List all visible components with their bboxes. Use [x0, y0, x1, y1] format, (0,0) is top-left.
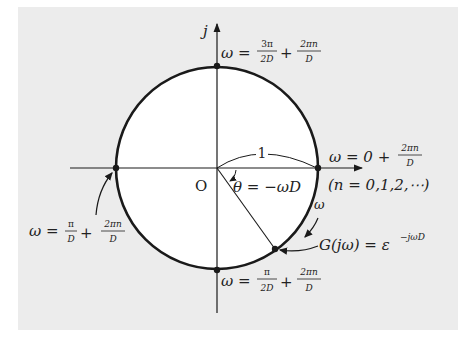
- svg-text:2πn: 2πn: [299, 39, 318, 49]
- svg-text:3π: 3π: [261, 39, 273, 49]
- svg-text:ω = 0 +: ω = 0 +: [329, 148, 390, 166]
- svg-text:ω =: ω =: [29, 222, 59, 240]
- direction-label: ω: [314, 197, 325, 212]
- svg-text:G(jω) = ε: G(jω) = ε: [319, 236, 390, 254]
- svg-text:D: D: [304, 283, 312, 293]
- svg-text:D: D: [304, 54, 312, 64]
- left-pointer-arrow: [96, 173, 112, 215]
- point-right: [315, 165, 321, 171]
- direction-arrow: [305, 218, 318, 237]
- point-left: [113, 165, 119, 171]
- svg-text:2πn: 2πn: [103, 219, 122, 229]
- point-g: [272, 246, 278, 252]
- svg-text:2πn: 2πn: [400, 143, 419, 153]
- svg-text:ω =: ω =: [221, 272, 251, 290]
- point-top: [214, 63, 220, 69]
- svg-text:+: +: [80, 224, 93, 242]
- svg-text:2D: 2D: [260, 54, 274, 64]
- svg-text:(n = 0,1,2,⋯): (n = 0,1,2,⋯): [328, 176, 430, 194]
- g-pointer-arrow: [280, 246, 318, 251]
- svg-text:2D: 2D: [260, 283, 274, 293]
- svg-text:D: D: [108, 234, 116, 244]
- bottom-point-label: ω = π 2D + 2πn D: [221, 267, 321, 293]
- svg-text:+: +: [280, 273, 293, 291]
- svg-text:ω =: ω =: [221, 44, 251, 62]
- svg-text:π: π: [68, 219, 74, 229]
- svg-text:D: D: [405, 158, 413, 168]
- transfer-function-label: G(jω) = ε −jωD: [319, 232, 425, 254]
- top-point-label: ω = 3π 2D + 2πn D: [221, 39, 321, 64]
- imag-axis-label: j: [200, 22, 208, 40]
- svg-text:2πn: 2πn: [299, 267, 318, 277]
- svg-text:+: +: [280, 44, 293, 62]
- radius-label: 1: [258, 145, 267, 161]
- left-point-label: ω = π D + 2πn D: [29, 219, 125, 244]
- unit-circle-diagram: 1 j O θ = −ωD ω ω = 3π 2D + 2πn D ω = 0 …: [0, 0, 472, 347]
- svg-text:−jωD: −jωD: [400, 232, 425, 242]
- point-bottom: [214, 267, 220, 273]
- angle-label: θ = −ωD: [233, 178, 301, 196]
- origin-label: O: [195, 177, 207, 195]
- svg-text:D: D: [66, 234, 74, 244]
- svg-text:π: π: [264, 267, 270, 277]
